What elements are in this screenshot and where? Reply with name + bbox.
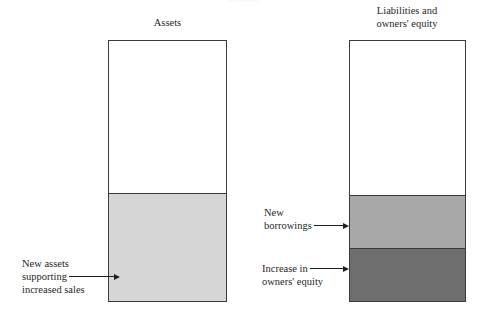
assets-bar [108,40,227,302]
new-borrowings-segment [350,195,465,249]
liabilities-column-title: Liabilities and owners' equity [341,5,473,30]
assets-column-title: Assets [108,17,227,30]
annotation-new-assets-line1: New assets [22,257,69,270]
annotation-new-assets-line2: supporting [22,270,67,283]
assets-new-segment [109,193,226,301]
clipped-top-title: Exhibit [0,0,487,2]
annotation-new-assets-line3: increased sales [22,283,85,296]
increase-owners-equity-segment [350,248,465,301]
annotation-new-assets: New assets supporting increased sales [22,257,120,296]
annotation-increase-owners-equity-line1: Increase in [262,262,308,275]
annotation-increase-owners-equity-line2: owners' equity [262,275,323,288]
arrow-to-assets-new-icon [69,270,120,283]
annotation-increase-owners-equity: Increase in owners' equity [262,262,349,288]
assets-existing-segment [109,41,226,193]
arrow-to-new-borrowings-icon [314,219,349,232]
arrow-to-increase-owners-equity-icon [310,262,349,275]
annotation-new-borrowings: New borrowings [264,206,349,232]
liabilities-bar [349,40,466,302]
liabilities-existing-segment [350,41,465,195]
annotation-new-borrowings-line2: borrowings [264,219,312,232]
annotation-new-borrowings-line1: New [264,206,284,219]
